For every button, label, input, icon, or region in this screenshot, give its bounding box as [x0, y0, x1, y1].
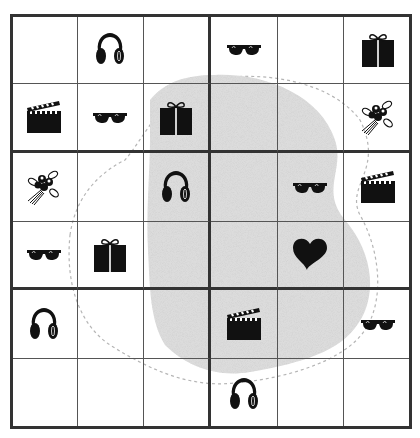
puzzle-grid	[11, 15, 411, 428]
clapperboard-icon	[358, 167, 398, 207]
grid-cell[interactable]	[144, 359, 211, 428]
sunglasses-icon	[224, 29, 264, 69]
grid-cell[interactable]	[344, 290, 411, 359]
headphones-icon	[224, 374, 264, 414]
bouquet-icon	[358, 97, 398, 137]
grid-cell[interactable]	[78, 222, 145, 291]
grid-cell[interactable]	[78, 290, 145, 359]
grid-cell[interactable]	[144, 153, 211, 222]
headphones-icon	[24, 304, 64, 344]
grid-cell[interactable]	[211, 153, 278, 222]
grid-cell[interactable]	[278, 290, 345, 359]
grid-cell[interactable]	[344, 84, 411, 153]
grid-cell[interactable]	[78, 359, 145, 428]
grid-cell[interactable]	[344, 359, 411, 428]
bouquet-icon	[24, 167, 64, 207]
sunglasses-icon	[290, 167, 330, 207]
grid-cell[interactable]	[211, 359, 278, 428]
sunglasses-icon	[90, 97, 130, 137]
grid-cell[interactable]	[144, 222, 211, 291]
clapperboard-icon	[24, 97, 64, 137]
grid-cell[interactable]	[11, 15, 78, 84]
grid-cell[interactable]	[278, 84, 345, 153]
headphones-icon	[156, 167, 196, 207]
gift-icon	[90, 234, 130, 274]
grid-cell[interactable]	[211, 84, 278, 153]
grid-cell[interactable]	[11, 290, 78, 359]
sunglasses-icon	[358, 304, 398, 344]
grid-cell[interactable]	[78, 84, 145, 153]
grid-cell[interactable]	[144, 15, 211, 84]
headphones-icon	[90, 29, 130, 69]
sunglasses-icon	[24, 234, 64, 274]
grid-cell[interactable]	[11, 222, 78, 291]
grid-cell[interactable]	[278, 359, 345, 428]
heart-icon	[290, 234, 330, 274]
grid-cell[interactable]	[11, 153, 78, 222]
grid-cell[interactable]	[144, 290, 211, 359]
grid-cell[interactable]	[11, 84, 78, 153]
clapperboard-icon	[224, 304, 264, 344]
grid-cell[interactable]	[211, 15, 278, 84]
grid-cell[interactable]	[78, 15, 145, 84]
grid-cell[interactable]	[344, 222, 411, 291]
grid-cell[interactable]	[11, 359, 78, 428]
grid-cell[interactable]	[278, 222, 345, 291]
grid-cell[interactable]	[144, 84, 211, 153]
gift-icon	[156, 97, 196, 137]
grid-cell[interactable]	[344, 153, 411, 222]
grid-cell[interactable]	[78, 153, 145, 222]
grid-cell[interactable]	[344, 15, 411, 84]
grid-cell[interactable]	[211, 290, 278, 359]
gift-icon	[358, 29, 398, 69]
grid-cell[interactable]	[211, 222, 278, 291]
puzzle-board	[11, 15, 411, 428]
grid-cell[interactable]	[278, 15, 345, 84]
grid-cell[interactable]	[278, 153, 345, 222]
